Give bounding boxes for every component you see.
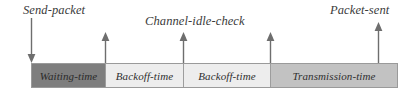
arrow-up-backoff-start	[101, 32, 110, 63]
annotation-label-send-packet: Send-packet	[23, 3, 85, 18]
annotation-label-packet-sent: Packet-sent	[330, 3, 389, 18]
timeline-bar: Waiting-time Backoff-time Backoff-time T…	[31, 63, 398, 88]
arrow-up-channel-idle-check	[179, 32, 188, 63]
timeline-segment-label: Backoff-time	[116, 70, 173, 82]
timeline-segment-label: Transmission-time	[293, 70, 376, 82]
timing-diagram: Send-packet Channel-idle-check Packet-se…	[0, 0, 410, 95]
timeline-segment-backoff-time-2: Backoff-time	[184, 64, 271, 87]
timeline-segment-label: Waiting-time	[40, 70, 98, 82]
timeline-segment-waiting-time: Waiting-time	[32, 64, 106, 87]
arrow-down-send-packet	[27, 18, 36, 63]
timeline-segment-backoff-time-1: Backoff-time	[106, 64, 184, 87]
annotation-label-channel-idle-check: Channel-idle-check	[145, 14, 245, 29]
timeline-segment-label: Backoff-time	[198, 70, 255, 82]
arrow-up-transmission-start	[266, 32, 275, 63]
timeline-segment-transmission-time: Transmission-time	[271, 64, 397, 87]
arrow-up-packet-sent	[374, 22, 383, 63]
